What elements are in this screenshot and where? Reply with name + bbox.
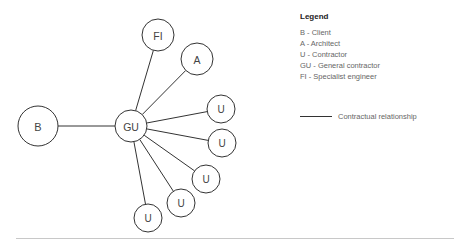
nodes: BGUFIAUUUUU — [18, 19, 236, 232]
node-label: U — [217, 104, 224, 115]
legend-item-architect: A - Architect — [300, 38, 450, 49]
node-label: U — [218, 138, 225, 149]
node-u3: U — [192, 165, 220, 193]
node-u2: U — [208, 129, 236, 157]
edge-gu-u3 — [144, 135, 195, 171]
legend: Legend B - Client A - Architect U - Cont… — [300, 12, 450, 82]
legend-item-client: B - Client — [300, 27, 450, 38]
edge-gu-a — [142, 70, 186, 114]
node-b: B — [18, 106, 58, 146]
node-a: A — [181, 43, 213, 75]
contract-line-icon — [300, 116, 332, 117]
node-label: FI — [153, 30, 162, 42]
legend-line-entry: Contractual relationship — [300, 112, 417, 121]
node-label: B — [34, 121, 41, 133]
edge-gu-u1 — [147, 112, 208, 123]
edge-gu-fi — [136, 50, 154, 110]
node-label: U — [202, 174, 209, 185]
legend-item-contractor: U - Contractor — [300, 49, 450, 60]
edge-gu-u4 — [140, 139, 174, 191]
node-label: A — [193, 54, 200, 66]
node-u5: U — [134, 204, 162, 232]
legend-title: Legend — [300, 12, 450, 21]
node-gu: GU — [115, 110, 147, 142]
node-u1: U — [207, 95, 235, 123]
node-label: U — [144, 213, 151, 224]
node-label: U — [177, 198, 184, 209]
legend-item-general-contractor: GU - General contractor — [300, 60, 450, 71]
legend-item-specialist-engineer: FI - Specialist engineer — [300, 71, 450, 82]
node-label: GU — [123, 121, 139, 133]
legend-line-label: Contractual relationship — [338, 112, 417, 121]
bottom-divider — [16, 238, 454, 239]
node-fi: FI — [142, 19, 174, 51]
edge-gu-u2 — [147, 129, 209, 141]
node-u4: U — [167, 189, 195, 217]
edge-gu-u5 — [134, 142, 146, 205]
